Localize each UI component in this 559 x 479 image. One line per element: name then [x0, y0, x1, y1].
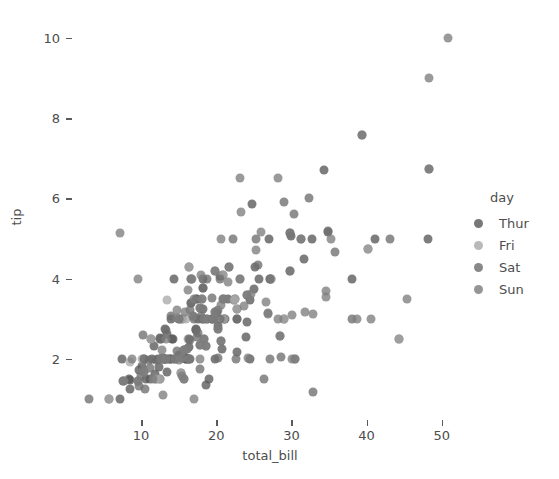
scatter-point: [161, 325, 170, 334]
scatter-point: [162, 367, 171, 376]
scatter-point: [158, 390, 167, 399]
scatter-point: [162, 295, 171, 304]
scatter-point: [300, 254, 309, 263]
scatter-point: [116, 394, 125, 403]
scatter-point: [170, 354, 179, 363]
scatter-point: [233, 314, 242, 323]
scatter-point: [139, 354, 148, 363]
y-tick-label: 2: [52, 351, 60, 366]
scatter-point: [217, 234, 226, 243]
scatter-point: [219, 294, 228, 303]
scatter-point: [202, 380, 211, 389]
legend-title: day: [490, 190, 559, 205]
y-tick-label: 4: [52, 271, 60, 286]
legend-label: Sun: [499, 282, 524, 297]
scatter-point: [184, 262, 193, 271]
x-tick-mark: [367, 420, 368, 426]
scatter-point: [140, 384, 149, 393]
scatter-point: [139, 368, 148, 377]
scatter-point: [256, 228, 265, 237]
x-tick-mark: [216, 420, 217, 426]
y-axis-label: tip: [9, 209, 24, 226]
scatter-point: [134, 274, 143, 283]
legend-item-sat[interactable]: Sat: [474, 256, 559, 278]
scatter-point: [224, 277, 233, 286]
scatter-point: [296, 234, 305, 243]
scatter-point: [239, 302, 248, 311]
scatter-point: [169, 274, 178, 283]
scatter-point: [308, 388, 317, 397]
scatter-point: [307, 234, 316, 243]
scatter-point: [237, 208, 246, 217]
plot-data-area: [72, 14, 468, 420]
scatter-point: [319, 166, 328, 175]
scatter-point: [322, 287, 331, 296]
x-tick-mark: [442, 420, 443, 426]
scatter-plot-figure: 246810 1020304050 tip total_bill day Thu…: [0, 0, 559, 479]
scatter-point: [203, 314, 212, 323]
legend: day ThurFriSatSun: [474, 190, 559, 300]
scatter-point: [252, 246, 261, 255]
y-tick-label: 10: [43, 31, 60, 46]
scatter-point: [210, 267, 219, 276]
scatter-point: [185, 334, 194, 343]
scatter-point: [225, 262, 234, 271]
scatter-point: [423, 234, 432, 243]
scatter-point: [202, 342, 211, 351]
legend-marker-icon: [474, 263, 483, 272]
x-tick-label: 20: [208, 428, 225, 443]
scatter-point: [208, 294, 217, 303]
y-tick-label: 6: [52, 191, 60, 206]
scatter-point: [116, 228, 125, 237]
scatter-point: [161, 334, 170, 343]
scatter-point: [188, 274, 197, 283]
scatter-point: [266, 274, 275, 283]
scatter-point: [254, 261, 263, 270]
scatter-point: [105, 394, 114, 403]
legend-item-fri[interactable]: Fri: [474, 234, 559, 256]
x-tick-label: 50: [433, 428, 450, 443]
scatter-point: [276, 352, 285, 361]
x-tick-label: 30: [283, 428, 300, 443]
scatter-point: [214, 354, 223, 363]
legend-label: Sat: [499, 260, 520, 275]
scatter-point: [120, 377, 129, 386]
legend-item-thur[interactable]: Thur: [474, 212, 559, 234]
scatter-point: [371, 234, 380, 243]
scatter-point: [244, 353, 253, 362]
scatter-point: [157, 345, 166, 354]
scatter-point: [287, 354, 296, 363]
scatter-point: [443, 34, 452, 43]
scatter-point: [363, 245, 372, 254]
scatter-point: [179, 374, 188, 383]
scatter-point: [125, 384, 134, 393]
scatter-point: [199, 284, 208, 293]
legend-marker-icon: [474, 241, 483, 250]
scatter-point: [331, 247, 340, 256]
scatter-point: [255, 274, 264, 283]
legend-entries: ThurFriSatSun: [474, 212, 559, 300]
x-axis-label: total_bill: [242, 448, 297, 463]
scatter-point: [232, 354, 241, 363]
scatter-point: [242, 317, 251, 326]
scatter-point: [288, 311, 297, 320]
scatter-point: [353, 314, 362, 323]
scatter-point: [260, 374, 269, 383]
scatter-point: [247, 200, 256, 209]
scatter-point: [85, 394, 94, 403]
scatter-point: [214, 324, 223, 333]
scatter-point: [273, 174, 282, 183]
legend-item-sun[interactable]: Sun: [474, 278, 559, 300]
scatter-point: [196, 271, 205, 280]
scatter-point: [275, 332, 284, 341]
scatter-point: [280, 197, 289, 206]
scatter-point: [217, 345, 226, 354]
legend-marker-icon: [474, 285, 483, 294]
scatter-point: [133, 376, 142, 385]
scatter-point: [217, 336, 226, 345]
scatter-point: [424, 165, 433, 174]
x-tick-label: 10: [133, 428, 150, 443]
scatter-point: [191, 326, 200, 335]
scatter-point: [189, 394, 198, 403]
scatter-point: [290, 210, 299, 219]
